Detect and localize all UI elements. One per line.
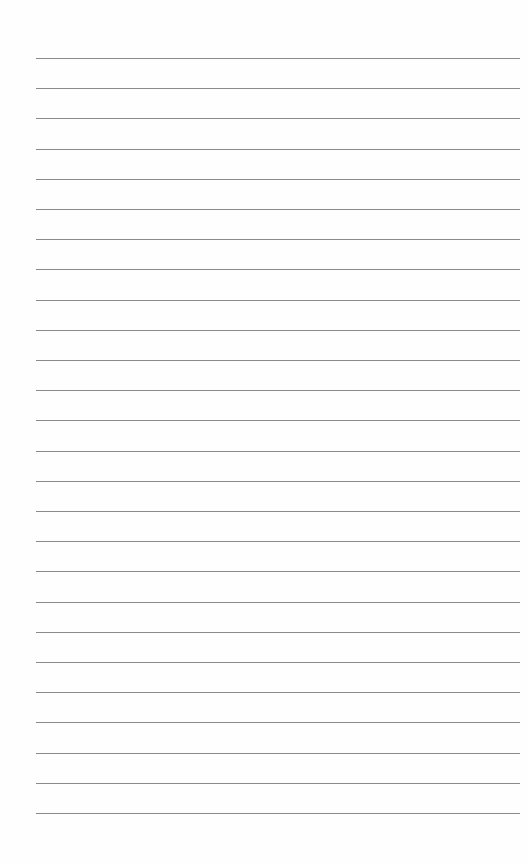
ruled-line <box>36 662 520 663</box>
ruled-line <box>36 420 520 421</box>
ruled-line <box>36 753 520 754</box>
ruled-line <box>36 330 520 331</box>
ruled-line <box>36 58 520 59</box>
ruled-line <box>36 481 520 482</box>
ruled-line <box>36 632 520 633</box>
ruled-line <box>36 209 520 210</box>
ruled-line <box>36 722 520 723</box>
ruled-line <box>36 511 520 512</box>
ruled-line <box>36 783 520 784</box>
lined-paper-sheet <box>0 0 528 864</box>
ruled-line <box>36 149 520 150</box>
ruled-line <box>36 88 520 89</box>
ruled-line <box>36 118 520 119</box>
ruled-line <box>36 360 520 361</box>
ruled-line <box>36 602 520 603</box>
ruled-line <box>36 571 520 572</box>
ruled-line <box>36 239 520 240</box>
ruled-line <box>36 541 520 542</box>
ruled-line <box>36 300 520 301</box>
ruled-line <box>36 813 520 814</box>
ruled-line <box>36 451 520 452</box>
ruled-line <box>36 269 520 270</box>
ruled-line <box>36 390 520 391</box>
ruled-line <box>36 692 520 693</box>
ruled-line <box>36 179 520 180</box>
